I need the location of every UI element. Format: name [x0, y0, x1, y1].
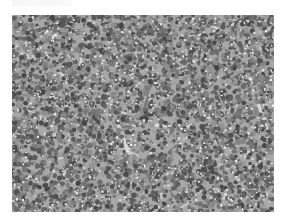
faint-caption: [12, 0, 72, 6]
micrograph-texture: [12, 15, 274, 212]
micrograph-image: [12, 15, 274, 212]
